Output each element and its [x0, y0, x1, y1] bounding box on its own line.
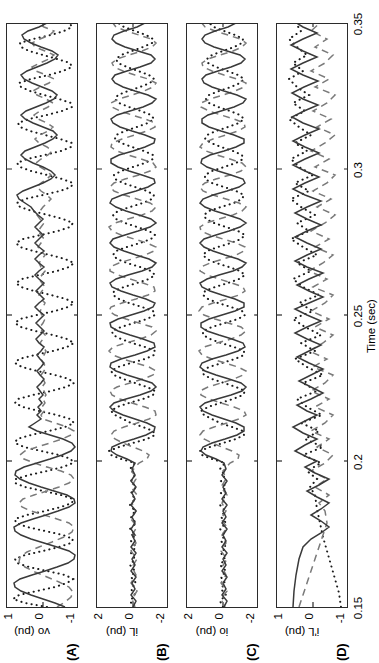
xtick-1: 0.2 — [352, 445, 364, 479]
panel-d-plot-area — [276, 23, 348, 608]
panel-b-ytick-bottom: -2 — [154, 613, 166, 636]
rotated-figure-wrapper: Phase A Phase B Phase C (A) vo (pu) 1 0 … — [0, 0, 379, 663]
panel-c-plot-area — [186, 23, 258, 608]
panel-a-ytick-top: 1 — [2, 613, 14, 631]
panel-d-tag: (D) — [334, 644, 349, 661]
panel-a: (A) vo (pu) 1 0 -1 — [0, 0, 90, 663]
panel-a-tag: (A) — [64, 644, 79, 661]
panel-d-ytick-bottom: -1 — [334, 613, 346, 636]
panel-c-ytick-mid: 0 — [213, 613, 225, 631]
panel-a-trace-phase-a — [14, 23, 75, 607]
figure-canvas: Phase A Phase B Phase C (A) vo (pu) 1 0 … — [0, 0, 379, 663]
panel-c-ytick-top: 2 — [182, 613, 194, 631]
panel-a-traces — [7, 23, 78, 607]
panel-c-tag: (C) — [244, 644, 259, 661]
xtick-0: 0.15 — [352, 586, 364, 630]
panel-d-ytick-mid: 0 — [303, 613, 315, 631]
xaxis-label: Time (sec) — [365, 299, 377, 353]
panel-d: (D) i'L (pu) 1 0 -1 0.15 0.2 0.25 0.3 0.… — [270, 0, 379, 663]
xtick-4: 0.35 — [352, 2, 364, 46]
panel-d-traces — [277, 23, 348, 607]
panel-d-trace-phase-a — [291, 23, 329, 607]
panel-b-traces — [97, 23, 168, 607]
panel-c-trace-phase-a — [200, 23, 246, 607]
panel-b: (B) iL (pu) 2 0 -2 — [90, 0, 180, 663]
panel-c: (C) io (pu) 2 0 -2 — [180, 0, 270, 663]
panel-b-tag: (B) — [154, 644, 169, 661]
panel-a-ytick-mid: 0 — [33, 613, 45, 631]
xtick-3: 0.3 — [352, 153, 364, 187]
panel-c-ytick-bottom: -2 — [244, 613, 256, 636]
panel-b-ytick-mid: 0 — [123, 613, 135, 631]
panel-a-ytick-bottom: -1 — [64, 613, 76, 636]
panel-c-traces — [187, 23, 258, 607]
panel-a-plot-area — [6, 23, 78, 608]
panel-b-ytick-top: 2 — [92, 613, 104, 631]
xtick-2: 0.25 — [352, 294, 364, 338]
panel-b-plot-area — [96, 23, 168, 608]
panel-d-ytick-top: 1 — [272, 613, 284, 631]
